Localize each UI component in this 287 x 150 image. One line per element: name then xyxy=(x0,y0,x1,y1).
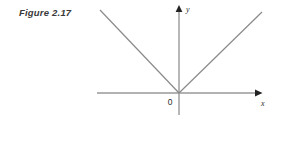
y-axis-arrowhead xyxy=(176,5,183,12)
figure-container: Figure 2.17 0 y x xyxy=(0,0,287,150)
x-axis-arrowhead xyxy=(255,90,263,97)
origin-label: 0 xyxy=(168,97,173,107)
plot-area: 0 y x xyxy=(0,0,287,150)
curve-left-branch xyxy=(100,10,179,93)
y-axis-label: y xyxy=(185,5,190,14)
x-axis-label: x xyxy=(260,99,265,108)
curve-right-branch xyxy=(179,12,262,93)
